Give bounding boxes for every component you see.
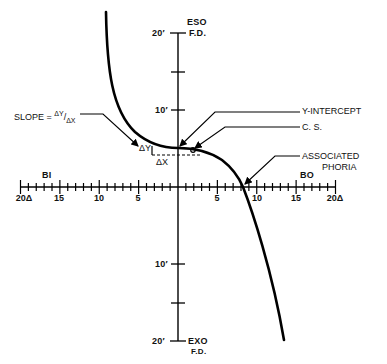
- tick-label-bo-10: 10: [252, 193, 262, 203]
- cs-leader: [195, 127, 300, 148]
- delta-x-label: ΔX: [156, 157, 168, 168]
- tick-label-exo-10: 10′: [155, 259, 168, 269]
- tick-label-bi-20: 20Δ: [16, 193, 32, 203]
- fixation-disparity-curve: [106, 12, 284, 340]
- bo-label: BO: [300, 170, 314, 180]
- exo-label: EXO: [188, 336, 208, 346]
- slope-denominator: ΔX: [66, 117, 75, 124]
- y-intercept-label: Y-INTERCEPT: [302, 106, 361, 117]
- slope-leader: [80, 114, 138, 146]
- tick-label-bi-15: 15: [54, 193, 64, 203]
- cs-label: C. S.: [302, 122, 322, 133]
- eso-label: ESO: [187, 17, 207, 27]
- fixation-disparity-diagram: [0, 0, 387, 364]
- tick-label-eso-20: 20′: [152, 28, 165, 38]
- slope-prefix: SLOPE =: [14, 112, 54, 122]
- tick-label-eso-10: 10′: [155, 105, 168, 115]
- exo-fd-label: F.D.: [191, 347, 206, 357]
- associated-phoria-label-line2: PHORIA: [322, 162, 357, 173]
- associated-phoria-leader: [245, 156, 300, 184]
- tick-label-exo-20: 20′: [152, 336, 165, 346]
- bi-label: BI: [42, 170, 52, 180]
- y-intercept-leader: [180, 112, 300, 146]
- delta-y-label: ΔY: [139, 143, 151, 154]
- eso-fd-label: F.D.: [189, 28, 206, 38]
- slope-numerator: ΔY: [54, 110, 63, 117]
- associated-phoria-label-line1: ASSOCIATED: [302, 151, 359, 162]
- slope-annotation: SLOPE = ΔY/ΔX: [14, 108, 76, 126]
- tick-label-bo-15: 15: [291, 193, 301, 203]
- tick-label-bo-5: 5: [214, 193, 219, 203]
- tick-label-bi-10: 10: [94, 193, 104, 203]
- tick-label-bi-5: 5: [135, 193, 140, 203]
- tick-label-bo-20: 20Δ: [327, 193, 343, 203]
